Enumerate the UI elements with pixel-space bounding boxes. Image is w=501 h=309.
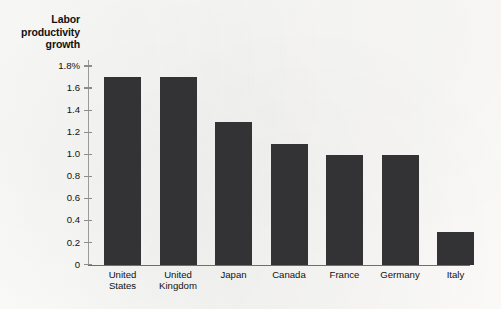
bar[interactable] — [160, 77, 197, 265]
x-axis-tick-label-line: France — [314, 269, 375, 280]
bar-group: Germany — [374, 66, 427, 265]
x-axis-tick-label-line: Kingdom — [148, 280, 209, 291]
bar-group: UnitedKingdom — [152, 66, 205, 265]
x-axis-tick-label: Italy — [425, 269, 486, 280]
y-axis-tick-label: 0.6 — [34, 193, 80, 203]
x-axis-tick-label: Germany — [370, 269, 431, 280]
y-axis-tick-label: 1.2 — [34, 127, 80, 137]
x-axis-tick-label-line: United — [92, 269, 153, 280]
x-axis-tick-label-line: States — [92, 280, 153, 291]
x-axis-tick-label-line: United — [148, 269, 209, 280]
x-axis-tick-label: France — [314, 269, 375, 280]
y-axis-tick-label: 1.4 — [34, 105, 80, 115]
bar-group: Japan — [207, 66, 260, 265]
bar[interactable] — [326, 155, 363, 265]
x-axis-tick-label: Canada — [259, 269, 320, 280]
x-axis-tick-label: UnitedKingdom — [148, 269, 209, 292]
y-axis-title-line-2: productivity — [8, 26, 80, 39]
y-axis-title-line-3: growth — [8, 38, 80, 51]
x-axis-tick-label: UnitedStates — [92, 269, 153, 292]
x-axis-tick-label-line: Japan — [203, 269, 264, 280]
y-axis-title-line-1: Labor — [8, 13, 80, 26]
y-axis-tick-label: 0.8 — [34, 171, 80, 181]
bar-group: UnitedStates — [96, 66, 149, 265]
bar[interactable] — [437, 232, 474, 265]
x-axis-tick-label-line: Italy — [425, 269, 486, 280]
chart-page: Labor productivity growth 1.8%1.61.41.21… — [0, 0, 501, 309]
x-axis-tick-label-line: Germany — [370, 269, 431, 280]
y-axis-tick-label: 0 — [34, 260, 80, 270]
y-axis-tick-label: 1.6 — [34, 83, 80, 93]
y-axis-tick-label: 1.8% — [34, 61, 80, 71]
y-axis-title: Labor productivity growth — [8, 13, 80, 51]
bar[interactable] — [215, 122, 252, 265]
bar-group: Canada — [263, 66, 316, 265]
plot-area: UnitedStatesUnitedKingdomJapanCanadaFran… — [88, 66, 470, 265]
bar[interactable] — [382, 155, 419, 265]
bar-group: Italy — [429, 66, 482, 265]
y-axis-tick-label: 0.4 — [34, 215, 80, 225]
x-axis-tick-label: Japan — [203, 269, 264, 280]
bar-group: France — [318, 66, 371, 265]
y-axis-tick-label: 0.2 — [34, 238, 80, 248]
y-axis-tick-label: 1.0 — [34, 149, 80, 159]
bar[interactable] — [271, 144, 308, 265]
bar[interactable] — [104, 77, 141, 265]
x-axis-tick-label-line: Canada — [259, 269, 320, 280]
